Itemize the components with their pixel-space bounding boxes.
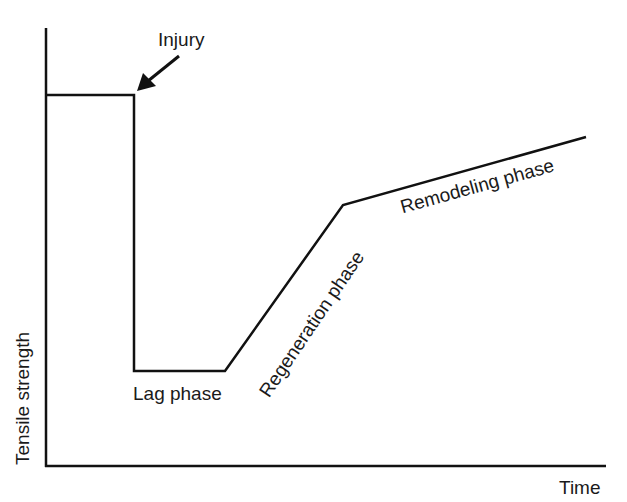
lag-phase-label: Lag phase	[133, 383, 222, 405]
y-axis-label: Tensile strength	[12, 332, 34, 465]
diagram-canvas	[0, 0, 627, 502]
injury-label: Injury	[158, 29, 204, 51]
injury-arrow-shaft	[148, 56, 179, 81]
x-axis-label: Time	[559, 477, 601, 499]
